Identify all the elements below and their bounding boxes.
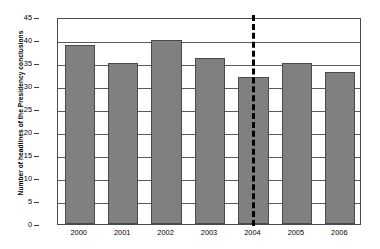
y-tick-label: 25	[10, 106, 32, 114]
x-tick-label-2005: 2005	[274, 228, 317, 238]
y-axis-tick-group: 051015202530354045	[0, 0, 57, 249]
y-tick-label: 20	[10, 129, 32, 137]
y-tick-mark	[34, 225, 39, 226]
dashed-marker-line-2004	[252, 15, 255, 226]
plot-area	[57, 18, 361, 225]
y-tick-label: 40	[10, 37, 32, 45]
y-tick-mark	[34, 110, 39, 111]
y-tick-label: 15	[10, 152, 32, 160]
y-tick-mark	[34, 18, 39, 19]
y-tick-mark	[34, 179, 39, 180]
x-tick-label-2006: 2006	[318, 228, 361, 238]
bar-2002	[151, 40, 181, 224]
bar-2005	[282, 63, 312, 224]
x-tick-label-2000: 2000	[57, 228, 100, 238]
y-tick-mark	[34, 202, 39, 203]
y-tick-mark	[34, 156, 39, 157]
bar-2000	[65, 45, 95, 224]
y-tick-mark	[34, 64, 39, 65]
y-tick-label: 45	[10, 14, 32, 22]
y-tick-label: 30	[10, 83, 32, 91]
y-tick-label: 5	[10, 198, 32, 206]
x-axis-tick-group: 2000200120022003200420052006	[57, 228, 361, 242]
bar-chart-figure: Number of headlines of the Presidency co…	[0, 0, 380, 249]
y-tick-mark	[34, 41, 39, 42]
y-tick-mark	[34, 133, 39, 134]
y-tick-mark	[34, 87, 39, 88]
x-tick-label-2004: 2004	[231, 228, 274, 238]
y-tick-label: 10	[10, 175, 32, 183]
x-tick-label-2003: 2003	[187, 228, 230, 238]
bar-2001	[108, 63, 138, 224]
x-tick-label-2002: 2002	[144, 228, 187, 238]
bar-2006	[325, 72, 355, 224]
gridline	[58, 42, 360, 43]
bar-2003	[195, 58, 225, 224]
y-tick-label: 0	[10, 221, 32, 229]
y-tick-label: 35	[10, 60, 32, 68]
x-tick-label-2001: 2001	[100, 228, 143, 238]
